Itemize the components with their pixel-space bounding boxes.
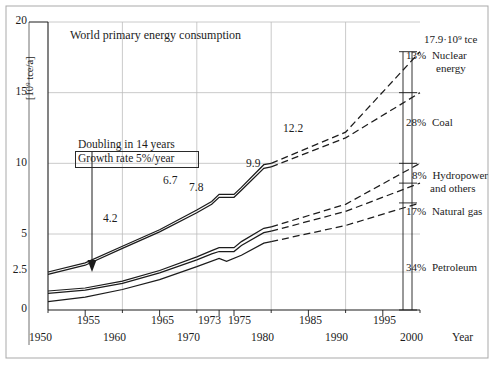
x-tick-1955: 1955 [77, 314, 100, 326]
doubling-arrow [88, 152, 97, 272]
share-label-hydropower: 8% Hydropower [412, 170, 488, 182]
share-percent-natural-gas: 17% [406, 205, 426, 217]
share-percent-hydropower: 8% [412, 169, 427, 181]
share-label-petroleum: 34% Petroleum [406, 262, 477, 274]
share-label-coal: 28% Coal [406, 117, 453, 129]
x-tick-1950: 1950 [29, 331, 52, 343]
share-label-natural-gas: 17% Natural gas [406, 206, 482, 218]
share-name-nuclear: Nuclear [432, 49, 467, 61]
series-3-solid [48, 231, 271, 293]
x-tick-1995: 1995 [373, 314, 396, 326]
x-tick-1990: 1990 [325, 331, 348, 343]
x-tick-1965: 1965 [151, 314, 174, 326]
share-name-hydropower: Hydropower [432, 169, 488, 181]
x-tick-2000: 2000 [400, 331, 423, 343]
y-tick-2-5: 2.5 [4, 263, 27, 275]
y-axis-title: [10⁹ tce/a] [24, 56, 35, 100]
y-axis-title-text: [10⁹ tce/a] [24, 56, 35, 100]
x-tick-1960: 1960 [103, 331, 126, 343]
total-energy-label: 17.9·10⁹ tce [424, 34, 477, 46]
share-percent-nuclear: 13% [406, 49, 426, 61]
x-tick-1975: 1975 [228, 314, 251, 326]
data-label-12-2: 12.2 [283, 122, 303, 134]
share-name-nuclear-line2: energy [436, 63, 466, 75]
share-label-nuclear: 13% Nuclear [406, 50, 467, 62]
series-2-solid [48, 227, 271, 291]
chart-root: 20 15 10 5 2.5 0 [10⁹ tce/a] World prima… [0, 0, 494, 372]
share-percent-petroleum: 34% [406, 261, 426, 273]
share-name-hydropower-line2: and others [430, 183, 476, 195]
annotation-doubling: Doubling in 14 years [78, 138, 175, 150]
data-label-6-7: 6.7 [163, 174, 177, 186]
data-label-4-2: 4.2 [103, 212, 117, 224]
data-label-7-8: 7.8 [189, 181, 203, 193]
share-percent-coal: 28% [406, 116, 426, 128]
series-layer [48, 52, 420, 302]
x-axis-title: Year [452, 331, 473, 343]
x-tick-1985: 1985 [299, 314, 322, 326]
x-tick-1973: 1973 [198, 314, 221, 326]
y-tick-0: 0 [10, 302, 27, 314]
series-0-solid [48, 163, 271, 272]
y-tick-20: 20 [10, 14, 27, 26]
chart-title: World primary energy consumption [70, 29, 241, 42]
share-name-petroleum: Petroleum [432, 261, 477, 273]
share-name-coal: Coal [432, 116, 453, 128]
annotation-growth-rate: Growth rate 5%/year [78, 152, 174, 164]
data-label-9-9: 9.9 [246, 157, 260, 169]
y-tick-10: 10 [10, 156, 27, 168]
y-tick-5: 5 [10, 227, 27, 239]
x-tick-1970: 1970 [177, 331, 200, 343]
x-tick-1980: 1980 [251, 331, 274, 343]
share-name-natural-gas: Natural gas [432, 205, 482, 217]
series-1-solid [48, 167, 271, 274]
